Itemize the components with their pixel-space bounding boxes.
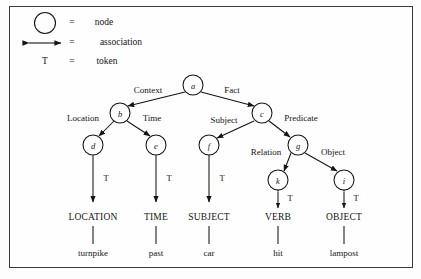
legend-equals-token: = [69, 57, 74, 67]
word-stems [93, 226, 344, 244]
node-label-k: k [276, 176, 280, 185]
node-label-e: e [154, 141, 158, 150]
token-marker-d: T [103, 174, 108, 183]
edge-label-context: Context [134, 86, 163, 95]
edge-label-object: Object [321, 148, 345, 157]
edge-c-g [269, 121, 290, 137]
node-label-g: g [296, 141, 300, 150]
terminal-object: OBJECT [326, 213, 362, 223]
edge-b-d [99, 121, 114, 136]
tree-edges [99, 92, 337, 171]
node-label-c: c [260, 109, 264, 118]
terminal-location: LOCATION [68, 213, 117, 223]
word-car: car [204, 249, 215, 258]
edge-label-subject: Subject [211, 116, 238, 125]
edge-label-predicate: Predicate [284, 114, 317, 123]
figure-container: = node = association T = token a b c d e… [0, 0, 421, 279]
node-label-a: a [191, 81, 195, 90]
diagram-canvas [0, 0, 421, 279]
word-lampost: lampost [330, 249, 359, 258]
terminal-verb: VERB [265, 213, 291, 223]
word-turnpike: turnpike [78, 249, 108, 258]
legend-equals-node: = [69, 18, 74, 28]
terminal-subject: SUBJECT [188, 213, 230, 223]
legend-equals-assoc: = [69, 38, 74, 48]
token-letter-icon: T [42, 57, 48, 67]
legend-label-assoc: association [100, 38, 142, 48]
token-marker-f: T [219, 174, 224, 183]
edge-g-k [284, 153, 291, 171]
edge-label-location: Location [67, 114, 99, 123]
node-label-i: i [343, 176, 345, 185]
edge-b-e [127, 121, 150, 136]
node-circle-icon [35, 13, 56, 34]
word-past: past [149, 249, 164, 258]
node-label-f: f [208, 141, 210, 150]
token-marker-e: T [166, 174, 171, 183]
node-label-d: d [91, 141, 95, 150]
edge-label-fact: Fact [224, 86, 240, 95]
token-marker-i: T [353, 194, 358, 203]
edge-label-relation: Relation [251, 148, 282, 157]
legend-label-node: node [95, 18, 113, 28]
word-hit: hit [273, 249, 283, 258]
token-marker-k: T [287, 194, 292, 203]
edge-label-time: Time [143, 114, 162, 123]
legend-label-token: token [96, 57, 117, 67]
terminal-time: TIME [144, 213, 168, 223]
node-label-b: b [118, 109, 122, 118]
legend-group [29, 13, 61, 44]
